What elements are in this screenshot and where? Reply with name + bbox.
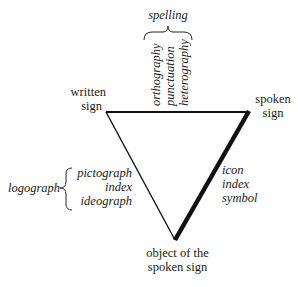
spelling-item-heterography: heterography <box>177 39 191 106</box>
written-sign-label: written sign <box>56 85 106 113</box>
logograph-items: pictograph index ideograph <box>60 166 132 208</box>
logograph-item-index: index <box>60 180 132 194</box>
object-line2: spoken sign <box>130 260 225 274</box>
relation-item-symbol: symbol <box>222 191 257 205</box>
object-line1: object of the <box>130 246 225 260</box>
relation-item-icon: icon <box>222 163 257 177</box>
spelling-item-punctuation: punctuation <box>163 46 177 106</box>
spoken-sign-line2: sign <box>248 106 298 120</box>
spelling-item-orthography: orthography <box>149 44 163 107</box>
logograph-heading: logograph <box>8 181 60 195</box>
written-sign-line2: sign <box>56 99 102 113</box>
spelling-heading: spelling <box>138 8 198 22</box>
relation-item-index: index <box>222 177 257 191</box>
spoken-sign-line1: spoken <box>248 92 298 106</box>
logograph-item-pictograph: pictograph <box>60 166 132 180</box>
written-sign-line1: written <box>56 85 106 99</box>
object-label: object of the spoken sign <box>130 246 225 274</box>
spoken-relation-items: icon index symbol <box>222 163 257 205</box>
spelling-brace <box>144 26 192 40</box>
logograph-item-ideograph: ideograph <box>60 194 132 208</box>
spoken-sign-label: spoken sign <box>248 92 298 120</box>
